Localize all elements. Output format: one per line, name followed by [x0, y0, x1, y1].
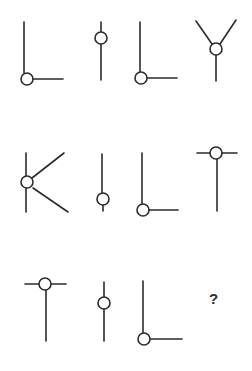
node-circle-icon [98, 297, 110, 309]
node-circle-icon [137, 204, 149, 216]
node-circle-icon [21, 73, 33, 85]
figure-r3c2-vertical-node-middle [98, 282, 110, 341]
node-circle-icon [21, 176, 33, 188]
figure-r2c2-vertical-node-bottom [97, 154, 109, 211]
node-circle-icon [39, 278, 51, 290]
figure-r1c1-l-shape [21, 22, 63, 85]
node-circle-icon [210, 147, 222, 159]
node-circle-icon [95, 32, 107, 44]
node-circle-icon [135, 72, 147, 84]
puzzle-figure-grid [0, 0, 252, 371]
figure-r3c1-t-shape [25, 278, 66, 341]
figure-r2c4-t-shape [197, 147, 237, 211]
figure-r1c4-y-shape [196, 20, 236, 81]
node-circle-icon [210, 43, 222, 55]
node-circle-icon [138, 333, 150, 345]
figure-r2c1-k-shape [21, 153, 68, 212]
figure-r2c3-l-shape [137, 153, 178, 216]
figure-r1c2-vertical-node-top [95, 22, 107, 80]
node-circle-icon [97, 193, 109, 205]
figure-r3c3-l-shape [138, 281, 182, 345]
figure-r1c3-l-shape [135, 22, 177, 84]
question-mark: ? [209, 290, 218, 307]
